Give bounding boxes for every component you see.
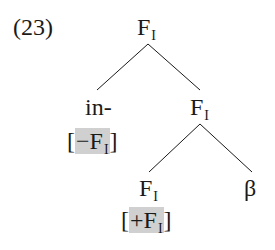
branch-fi-left	[149, 124, 200, 172]
root-node: FI	[137, 15, 156, 43]
root-subscript: I	[151, 28, 156, 43]
bracket-close: ]	[164, 207, 172, 233]
right-node-subscript: I	[204, 108, 209, 123]
bracket-open: [	[67, 128, 75, 154]
feature-highlight: −FI	[75, 128, 110, 154]
beta-node: β	[244, 176, 256, 200]
feature-minus-fi: [−FI]	[67, 129, 118, 157]
feature-label: F	[144, 207, 157, 233]
right-node-label: F	[190, 94, 203, 120]
bracket-close: ]	[110, 128, 118, 154]
feature-highlight: +FI	[129, 207, 164, 233]
bottom-left-node-fi: FI	[139, 176, 158, 204]
root-label: F	[137, 14, 150, 40]
feature-sign: −	[76, 128, 90, 154]
bottom-left-label: F	[139, 175, 152, 201]
feature-sign: +	[130, 207, 144, 233]
feature-subscript: I	[104, 142, 109, 157]
feature-plus-fi: [+FI]	[121, 208, 172, 236]
example-number: (23)	[13, 15, 53, 39]
feature-label: F	[90, 128, 103, 154]
bottom-left-subscript: I	[153, 189, 158, 204]
right-node-fi: FI	[190, 95, 209, 123]
branch-fi-right	[200, 124, 252, 172]
bracket-open: [	[121, 207, 129, 233]
left-node-in: in-	[85, 95, 112, 119]
branch-root-left	[97, 44, 148, 90]
branch-root-right	[148, 44, 200, 90]
feature-subscript: I	[158, 221, 163, 236]
